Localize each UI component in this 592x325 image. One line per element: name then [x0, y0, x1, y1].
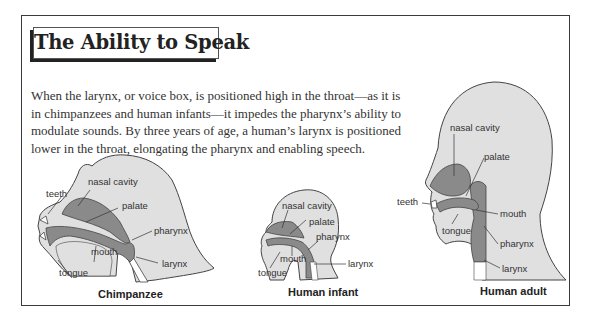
- chimp-caption: Chimpanzee: [98, 288, 163, 300]
- infant-caption: Human infant: [288, 286, 359, 298]
- chimp-label-larynx: larynx: [162, 258, 188, 269]
- infant-label-mouth: mouth: [280, 253, 306, 264]
- adult-label-palate: palate: [484, 151, 510, 162]
- chimp-label-nasal-cavity: nasal cavity: [88, 176, 138, 187]
- infant-label-tongue: tongue: [258, 267, 287, 278]
- chimp-label-palate: palate: [122, 200, 148, 211]
- adult-label-pharynx: pharynx: [500, 238, 534, 249]
- adult-caption: Human adult: [480, 285, 547, 297]
- chimpanzee-diagram: teeth nasal cavity palate pharynx mouth …: [38, 155, 214, 300]
- infant-diagram: nasal cavity palate pharynx mouth larynx…: [258, 190, 374, 298]
- chimp-label-pharynx: pharynx: [154, 225, 188, 236]
- chimp-label-mouth: mouth: [91, 246, 117, 257]
- adult-label-tongue: tongue: [442, 225, 471, 236]
- chimp-label-teeth: teeth: [46, 188, 67, 199]
- infant-label-nasal-cavity: nasal cavity: [282, 200, 332, 211]
- illustrations: teeth nasal cavity palate pharynx mouth …: [0, 0, 592, 325]
- adult-label-nasal-cavity: nasal cavity: [450, 122, 500, 133]
- chimp-label-tongue: tongue: [59, 267, 88, 278]
- infant-label-larynx: larynx: [348, 258, 374, 269]
- adult-trachea: [474, 262, 486, 280]
- adult-label-larynx: larynx: [502, 263, 528, 274]
- adult-label-teeth: teeth: [397, 196, 418, 207]
- infant-label-palate: palate: [309, 216, 335, 227]
- adult-diagram: nasal cavity palate teeth mouth tongue p…: [397, 82, 566, 297]
- infant-label-pharynx: pharynx: [316, 231, 350, 242]
- adult-label-mouth: mouth: [500, 208, 526, 219]
